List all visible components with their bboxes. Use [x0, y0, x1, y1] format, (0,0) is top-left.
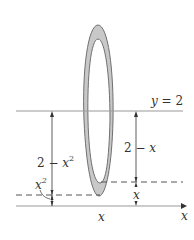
- label-x-axis: x: [181, 210, 188, 222]
- label-x-squared: x2: [35, 179, 47, 191]
- label-y-equals-2: y = 2: [151, 95, 183, 107]
- label-x-bottom: x: [98, 211, 105, 223]
- label-2-minus-x: 2 − x: [124, 142, 156, 154]
- label-2-minus-x-squared: 2 − x2: [37, 157, 74, 169]
- label-x-small: x: [133, 189, 140, 201]
- washer-diagram: [0, 0, 194, 240]
